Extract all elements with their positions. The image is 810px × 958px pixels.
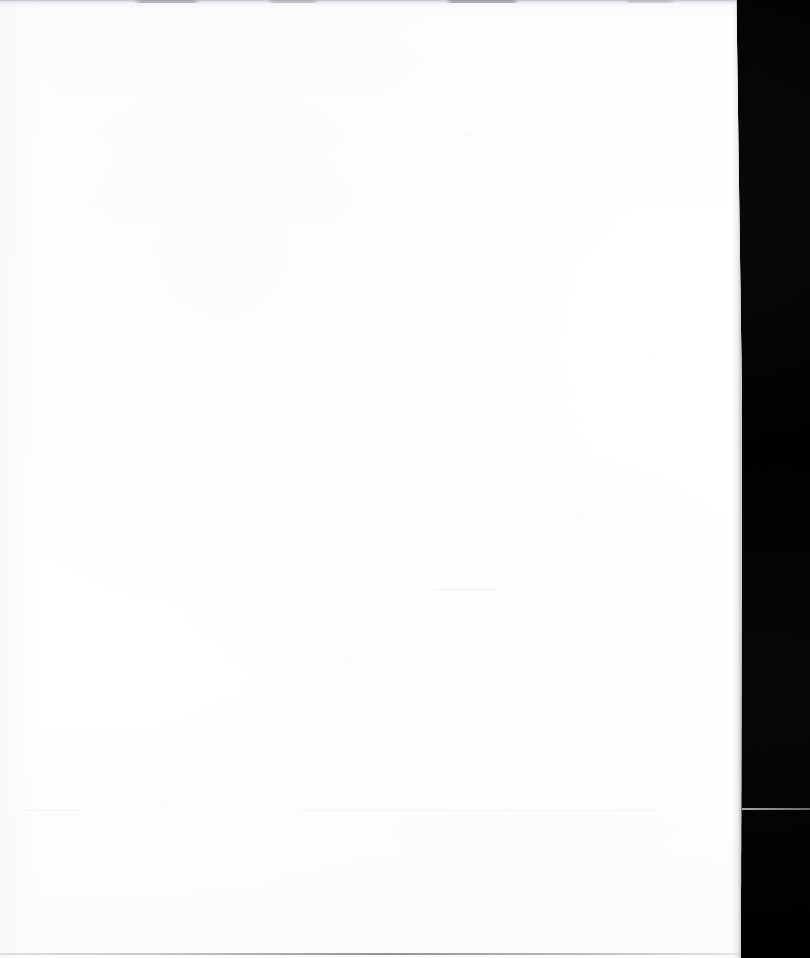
top-edge-shadow xyxy=(0,0,742,4)
top-edge-flecks xyxy=(0,0,742,3)
paper-tone-overlay xyxy=(0,0,742,958)
backdrop-light-rule xyxy=(742,808,810,810)
scanned-page-canvas xyxy=(0,0,810,958)
faint-mark-lower xyxy=(300,810,656,811)
paper-speckle-overlay xyxy=(0,0,742,958)
faint-mark-left xyxy=(20,810,82,811)
faint-mark-upper xyxy=(435,589,497,590)
bottom-edge-hairline xyxy=(0,953,742,955)
page-sheet xyxy=(0,0,742,958)
